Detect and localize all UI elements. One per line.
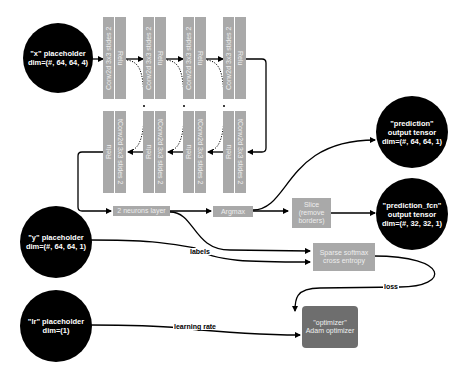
argmax-node: Argmax xyxy=(213,206,253,217)
prediction-fcn-type: output tensor xyxy=(382,210,442,219)
prediction-type: output tensor xyxy=(382,128,442,137)
encoder-block-2: Conv2d 3x3 stides 2 Relu xyxy=(143,17,166,99)
loss-fn-label-1: Sparse softmax xyxy=(320,249,369,257)
sparse-softmax-cross-entropy-node: Sparse softmax cross entropy xyxy=(313,243,375,271)
skip-add-marker-3 xyxy=(223,105,225,107)
decoder-relu-2: Relu xyxy=(183,111,194,193)
decoder-tconv-2: tConv2d 3x3 stides 2 xyxy=(195,111,206,193)
skip-add-marker-1 xyxy=(143,105,145,107)
encoder-conv-3: Conv2d 3x3 stides 2 xyxy=(183,17,194,99)
decoder-relu-3: Relu xyxy=(143,111,154,193)
lr-placeholder-name: "lr" placeholder xyxy=(28,317,84,326)
encoder-block-4: Conv2d 3x3 stides 2 Relu xyxy=(223,17,246,99)
encoder-conv-2: Conv2d 3x3 stides 2 xyxy=(143,17,154,99)
decoder-block-2: Relu tConv2d 3x3 stides 2 xyxy=(183,111,206,193)
lr-placeholder-dim: dim=(1) xyxy=(28,326,84,335)
prediction-name: "prediction" xyxy=(382,119,442,128)
prediction-fcn-output-node: "prediction_fcn"output tensordim=(#, 32,… xyxy=(376,178,448,250)
loss-edge-label: loss xyxy=(383,283,399,290)
encoder-conv-4: Conv2d 3x3 stides 2 xyxy=(223,17,234,99)
encoder-relu-4: Relu xyxy=(235,17,246,99)
decoder-tconv-1: tConv2d 3x3 stides 2 xyxy=(235,111,246,193)
y-placeholder-node: "y" placeholderdim=(#, 64, 64, 1) xyxy=(20,206,92,278)
decoder-block-3: Relu tConv2d 3x3 stides 2 xyxy=(143,111,166,193)
encoder-block-3: Conv2d 3x3 stides 2 Relu xyxy=(183,17,206,99)
x-placeholder-name: "x" placeholder xyxy=(28,49,88,58)
prediction-fcn-dim: dim=(#, 32, 32, 1) xyxy=(382,219,442,228)
encoder-relu-3: Relu xyxy=(195,17,206,99)
decoder-block-1: Relu tConv2d 3x3 stides 2 xyxy=(223,111,246,193)
x-placeholder-dim: dim=(#, 64, 64, 4) xyxy=(28,58,88,67)
labels-edge-label: labels xyxy=(189,248,211,255)
encoder-conv-1: Conv2d 3x3 stides 2 xyxy=(103,17,114,99)
encoder-relu-2: Relu xyxy=(155,17,166,99)
two-neurons-layer-label: 2 neurons layer xyxy=(117,207,165,215)
loss-fn-label-2: cross entropy xyxy=(323,257,365,265)
slice-node: Slice (remove borders) xyxy=(292,198,331,228)
slice-label-3: borders) xyxy=(298,217,324,225)
encoder-block-1: Conv2d 3x3 stides 2 Relu xyxy=(103,17,126,99)
decoder-relu-1: Relu xyxy=(223,111,234,193)
x-placeholder-node: "x" placeholderdim=(#, 64, 64, 4) xyxy=(23,23,93,93)
slice-label-2: (remove xyxy=(299,209,325,217)
two-neurons-layer-node: 2 neurons layer xyxy=(113,206,170,216)
prediction-fcn-name: "prediction_fcn" xyxy=(382,201,442,210)
decoder-tconv-4: tConv2d 3x3 stides 2 xyxy=(115,111,126,193)
argmax-label: Argmax xyxy=(221,208,245,216)
adam-optimizer-node: "optimizer" Adam optimizer xyxy=(302,306,358,348)
y-placeholder-dim: dim=(#, 64, 64, 1) xyxy=(26,242,86,251)
slice-label-1: Slice xyxy=(304,201,319,209)
y-placeholder-name: "y" placeholder xyxy=(26,233,86,242)
prediction-output-node: "prediction"output tensordim=(#, 64, 64,… xyxy=(376,96,448,168)
decoder-relu-4: Relu xyxy=(103,111,114,193)
skip-add-marker-2 xyxy=(183,105,185,107)
optimizer-label-2: Adam optimizer xyxy=(306,327,355,335)
encoder-relu-1: Relu xyxy=(115,17,126,99)
decoder-tconv-3: tConv2d 3x3 stides 2 xyxy=(155,111,166,193)
prediction-dim: dim=(#, 64, 64, 1) xyxy=(382,137,442,146)
decoder-block-4: Relu tConv2d 3x3 stides 2 xyxy=(103,111,126,193)
learning-rate-edge-label: learning rate xyxy=(173,323,217,330)
lr-placeholder-node: "lr" placeholderdim=(1) xyxy=(20,290,92,362)
optimizer-label-1: "optimizer" xyxy=(313,319,346,327)
